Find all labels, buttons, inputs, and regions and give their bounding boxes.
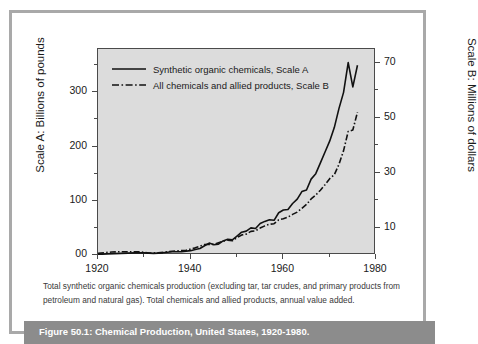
y-axis-left-tick-label: 100 (47, 193, 87, 205)
legend-item-all-chemicals: All chemicals and allied products, Scale… (112, 77, 362, 93)
chart-legend: Synthetic organic chemicals, Scale A All… (112, 61, 362, 93)
tick-mark (94, 173, 97, 174)
chart-plot-area: Synthetic organic chemicals, Scale A All… (97, 48, 375, 254)
legend-line-dashdot-icon (112, 80, 146, 90)
y-axis-right-tick-label: 50 (384, 110, 424, 122)
y-axis-right-tick-label: 10 (384, 220, 424, 232)
caption-line-1: Total synthetic organic chemicals produc… (43, 279, 417, 293)
legend-label-synthetic: Synthetic organic chemicals, Scale A (153, 64, 308, 75)
legend-label-all-chemicals: All chemicals and allied products, Scale… (153, 80, 329, 91)
y-axis-left-tick-label: 300 (47, 84, 87, 96)
tick-mark (329, 254, 330, 257)
tick-mark (375, 254, 376, 259)
tick-mark (190, 254, 191, 259)
legend-line-solid-icon (112, 64, 146, 74)
tick-mark (375, 89, 378, 90)
x-axis-tick-label: 1980 (350, 262, 400, 274)
tick-mark (94, 118, 97, 119)
tick-mark (375, 172, 380, 173)
figure-number-label: Figure 50.1: Chemical Production, United… (39, 326, 309, 337)
tick-mark (375, 227, 380, 228)
x-axis-tick-label: 1940 (165, 262, 215, 274)
tick-mark (236, 254, 237, 257)
figure-caption: Total synthetic organic chemicals produc… (43, 279, 417, 307)
x-axis-tick-label: 1920 (72, 262, 122, 274)
tick-mark (92, 91, 97, 92)
y-axis-right-title: Scale B: Millions of dollars (466, 5, 478, 205)
tick-mark (375, 199, 378, 200)
tick-mark (375, 117, 380, 118)
tick-mark (94, 227, 97, 228)
y-axis-left-tick-label: 200 (47, 139, 87, 151)
y-axis-right-tick-label: 30 (384, 165, 424, 177)
caption-line-2: petroleum and natural gas). Total chemic… (43, 293, 417, 307)
figure-number-bar: Figure 50.1: Chemical Production, United… (24, 321, 435, 344)
y-axis-left-tick-label: 00 (47, 247, 87, 259)
y-axis-left-title: Scale A: Billions of pounds (34, 5, 46, 205)
tick-mark (375, 144, 378, 145)
tick-mark (94, 64, 97, 65)
tick-mark (143, 254, 144, 257)
tick-mark (92, 200, 97, 201)
tick-mark (282, 254, 283, 259)
tick-mark (375, 62, 380, 63)
legend-item-synthetic: Synthetic organic chemicals, Scale A (112, 61, 362, 77)
x-axis-tick-label: 1960 (257, 262, 307, 274)
figure-frame: Synthetic organic chemicals, Scale A All… (9, 10, 426, 334)
series-all-chemicals-allied-products (98, 112, 357, 253)
tick-mark (92, 146, 97, 147)
tick-mark (97, 254, 98, 259)
y-axis-right-tick-label: 70 (384, 55, 424, 67)
